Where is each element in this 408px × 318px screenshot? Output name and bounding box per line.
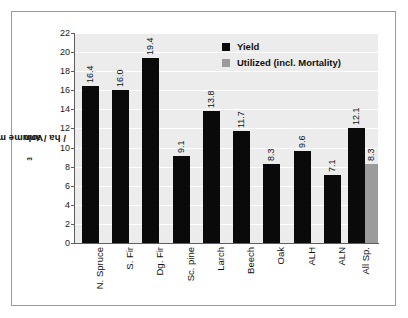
y-tick-mark bbox=[71, 109, 74, 110]
y-tick-mark bbox=[71, 205, 74, 206]
bar-yield[interactable] bbox=[82, 86, 99, 243]
bar-yield[interactable] bbox=[173, 156, 190, 243]
x-tick-label: Oak bbox=[276, 247, 286, 264]
x-tick-label: ALH bbox=[307, 247, 317, 265]
x-axis-line bbox=[74, 243, 379, 244]
y-tick-label: 6 bbox=[52, 181, 70, 190]
bar-value-label: 7.1 bbox=[328, 160, 337, 173]
y-tick-mark bbox=[71, 33, 74, 34]
legend-label: Utilized (incl. Mortality) bbox=[237, 58, 341, 68]
x-tick-label: Larch bbox=[216, 247, 226, 271]
y-axis-tick-labels: 0246810121416182022 bbox=[52, 33, 70, 243]
bar-group: 12.18.3 bbox=[348, 33, 378, 243]
bar-value-label: 16.4 bbox=[86, 66, 95, 84]
legend-item[interactable]: Utilized (incl. Mortality) bbox=[222, 56, 341, 70]
legend-item[interactable]: Yield bbox=[222, 40, 341, 54]
y-tick-label: 22 bbox=[52, 29, 70, 38]
y-tick-label: 16 bbox=[52, 86, 70, 95]
legend-swatch-icon bbox=[222, 59, 230, 67]
y-tick-mark bbox=[71, 167, 74, 168]
bar-value-label: 12.1 bbox=[352, 107, 361, 125]
y-tick-mark bbox=[71, 148, 74, 149]
bar-value-label: 16.0 bbox=[116, 70, 125, 88]
bar-utilized[interactable] bbox=[365, 164, 378, 243]
chart-legend: YieldUtilized (incl. Mortality) bbox=[222, 40, 341, 72]
y-tick-label: 4 bbox=[52, 200, 70, 209]
bar-value-label: 9.1 bbox=[177, 141, 186, 154]
bar-group: 19.4 bbox=[136, 33, 166, 243]
bar-yield[interactable] bbox=[233, 131, 250, 243]
bar-yield[interactable] bbox=[263, 164, 280, 243]
y-tick-mark bbox=[71, 224, 74, 225]
bar-value-label: 11.7 bbox=[237, 111, 246, 128]
bar-group: 9.1 bbox=[166, 33, 196, 243]
bar-yield[interactable] bbox=[112, 90, 129, 243]
y-tick-mark bbox=[71, 128, 74, 129]
bar-yield[interactable] bbox=[348, 128, 365, 244]
bar-value-label: 19.4 bbox=[146, 37, 155, 55]
y-tick-mark bbox=[71, 52, 74, 53]
chart-figure: Volume m3 / ha / ann 0246810121416182022… bbox=[0, 0, 408, 318]
y-tick-mark bbox=[71, 90, 74, 91]
x-tick-label: All Sp. bbox=[361, 247, 371, 274]
bar-yield[interactable] bbox=[294, 151, 311, 243]
bar-value-label: 8.3 bbox=[267, 148, 276, 161]
y-tick-label: 10 bbox=[52, 143, 70, 152]
x-tick-label: S. Fir bbox=[125, 247, 135, 270]
bar-value-label: 8.3 bbox=[367, 148, 376, 161]
y-tick-mark bbox=[71, 186, 74, 187]
bar-yield[interactable] bbox=[203, 111, 220, 243]
y-axis-title-superscript: 3 bbox=[26, 157, 33, 161]
y-tick-label: 18 bbox=[52, 67, 70, 76]
bar-group: 16.0 bbox=[105, 33, 135, 243]
y-tick-label: 20 bbox=[52, 48, 70, 57]
bar-yield[interactable] bbox=[324, 175, 341, 243]
y-tick-label: 0 bbox=[52, 239, 70, 248]
legend-label: Yield bbox=[237, 42, 259, 52]
x-tick-label: N. Spruce bbox=[95, 247, 105, 289]
bar-group: 16.4 bbox=[75, 33, 105, 243]
bar-value-label: 13.8 bbox=[207, 91, 216, 109]
y-tick-label: 14 bbox=[52, 105, 70, 114]
y-tick-label: 12 bbox=[52, 124, 70, 133]
y-tick-mark bbox=[71, 71, 74, 72]
y-tick-label: 8 bbox=[52, 162, 70, 171]
bar-value-label: 9.6 bbox=[298, 136, 307, 149]
x-tick-label: Sc. pine bbox=[186, 247, 196, 281]
y-tick-label: 2 bbox=[52, 219, 70, 228]
x-tick-label: ALN bbox=[337, 247, 347, 265]
y-axis-title: Volume m3 / ha / ann bbox=[25, 33, 39, 243]
x-axis-tick-labels: N. SpruceS. FirDg. FirSc. pineLarchBeech… bbox=[75, 247, 378, 307]
x-tick-label: Dg. Fir bbox=[155, 247, 165, 276]
x-tick-label: Beech bbox=[246, 247, 256, 274]
legend-swatch-icon bbox=[222, 43, 230, 51]
bar-yield[interactable] bbox=[142, 58, 159, 243]
y-tick-mark bbox=[71, 243, 74, 244]
